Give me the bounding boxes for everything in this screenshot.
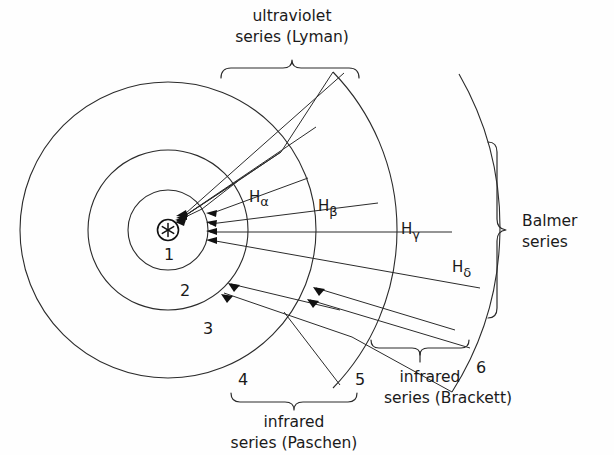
balmer-caption-line1: Balmer: [522, 212, 578, 230]
paschen-brace-group: infrared series (Paschen): [231, 393, 358, 452]
balmer-brace: [488, 142, 506, 318]
paschen-caption-line2: series (Paschen): [231, 434, 358, 452]
orbit-label-6: 6: [476, 358, 486, 377]
paschen-caption-line1: infrared: [264, 413, 325, 431]
lyman-ray-n5: [177, 127, 316, 221]
balmer-caption-line2: series: [522, 233, 568, 251]
h-alpha-sub: α: [260, 194, 269, 209]
lyman-brace: [221, 60, 359, 78]
brackett-caption-line2: series (Brackett): [384, 389, 512, 407]
orbit-label-1: 1: [164, 245, 174, 264]
paschen-series-rays: [221, 283, 352, 337]
lyman-arrowhead-4: [176, 210, 188, 217]
brackett-arrowhead-n5: [313, 287, 325, 296]
h-alpha-base: H: [249, 188, 260, 206]
paschen-ray-n5: [224, 293, 352, 337]
brackett-brace-group: infrared series (Brackett): [371, 340, 512, 407]
orbit-label-5: 5: [355, 370, 365, 389]
paschen-ray-n4: [231, 284, 340, 310]
sector-edge-upper-5: [281, 72, 333, 152]
orbit-label-4: 4: [238, 370, 248, 389]
lyman-brace-group: ultraviolet series (Lyman): [221, 7, 359, 78]
h-delta-base: H: [452, 258, 463, 276]
balmer-ray-h-beta: [210, 203, 378, 224]
h-beta-base: H: [318, 197, 329, 215]
lyman-caption-line2: series (Lyman): [235, 28, 349, 46]
h-delta-sub: δ: [463, 265, 471, 280]
h-gamma-base: H: [401, 220, 412, 238]
brackett-arrowhead-n6: [307, 299, 319, 308]
h-gamma-sub: γ: [412, 227, 420, 242]
balmer-series-rays: [206, 178, 480, 288]
brackett-ray-n6: [310, 300, 470, 348]
brackett-series-rays: [307, 287, 470, 348]
nucleus: [158, 220, 179, 241]
nucleus-star-icon: [162, 224, 173, 237]
orbit-label-2: 2: [180, 281, 190, 300]
sector-edge-upper-3: [202, 181, 238, 209]
balmer-brace-group: Balmer series: [488, 142, 578, 318]
balmer-ray-h-delta: [210, 240, 480, 288]
lyman-caption-line1: ultraviolet: [253, 7, 332, 25]
paschen-brace: [231, 393, 357, 410]
label-h-beta: Hβ: [318, 197, 338, 219]
diagram-canvas: 1 2 3 4 5 6 Hα Hβ Hγ Hδ ultraviolet: [0, 0, 614, 455]
balmer-arrowhead-h-alpha: [206, 210, 217, 217]
orbit-label-3: 3: [203, 319, 213, 338]
brackett-caption-line1: infrared: [400, 368, 461, 386]
label-h-gamma: Hγ: [401, 220, 420, 242]
paschen-arrowhead-n4: [228, 283, 240, 292]
h-beta-sub: β: [329, 204, 337, 219]
label-h-delta: Hδ: [452, 258, 471, 280]
label-h-alpha: Hα: [249, 188, 269, 209]
bohr-model-diagram: 1 2 3 4 5 6 Hα Hβ Hγ Hδ ultraviolet: [0, 0, 614, 455]
sector-edge-upper-4: [238, 152, 281, 181]
orbit-arc-5: [333, 72, 397, 388]
